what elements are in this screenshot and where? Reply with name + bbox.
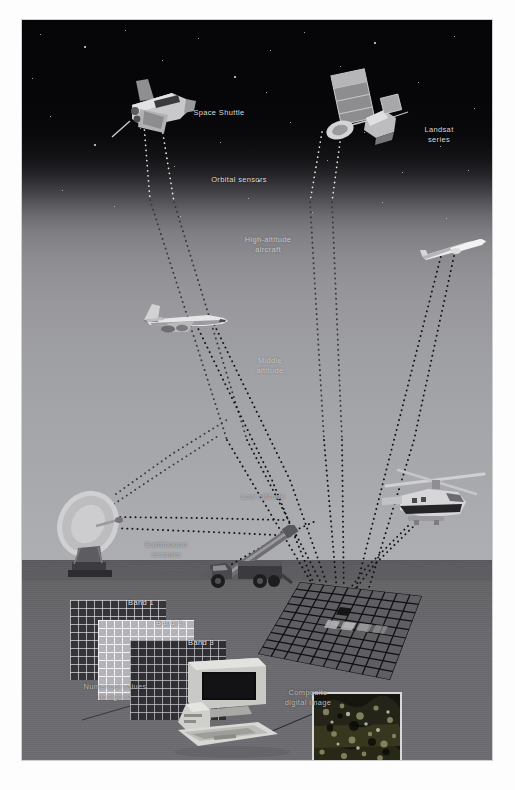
- remote-sensing-diagram: .rayD { stroke:#111; stroke-width:1.9; s…: [22, 20, 492, 760]
- composite-image-texture: [314, 694, 400, 760]
- glider-icon: [420, 230, 490, 264]
- computer-workstation-icon: [162, 656, 322, 760]
- space-shuttle-icon: [110, 75, 202, 145]
- figure-page: .rayD { stroke:#111; stroke-width:1.9; s…: [0, 0, 515, 790]
- band-1-label: Band 1: [128, 598, 154, 607]
- composite-digital-image-chip: [312, 692, 402, 760]
- band-2-label: Band 2: [156, 618, 182, 627]
- helicopter-icon: [380, 460, 492, 530]
- landsat-satellite-icon: [318, 68, 410, 160]
- band-3-label: Band 3: [188, 638, 214, 647]
- jet-aircraft-icon: [142, 298, 234, 342]
- satellite-dish-icon: [44, 482, 140, 582]
